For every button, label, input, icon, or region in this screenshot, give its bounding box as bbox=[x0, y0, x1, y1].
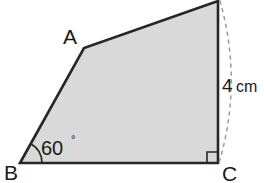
measurement-unit: cm bbox=[236, 78, 257, 95]
vertex-label-c: C bbox=[222, 162, 237, 183]
vertex-label-b: B bbox=[4, 161, 18, 183]
geometry-figure: A B C 60 ° 4 cm bbox=[0, 0, 264, 183]
geometry-canvas: A B C 60 ° 4 cm bbox=[0, 0, 264, 183]
degree-symbol: ° bbox=[71, 133, 75, 145]
measurement-value: 4 bbox=[222, 75, 233, 96]
angle-value-label: 60 bbox=[41, 137, 63, 159]
vertex-label-a: A bbox=[63, 25, 77, 48]
